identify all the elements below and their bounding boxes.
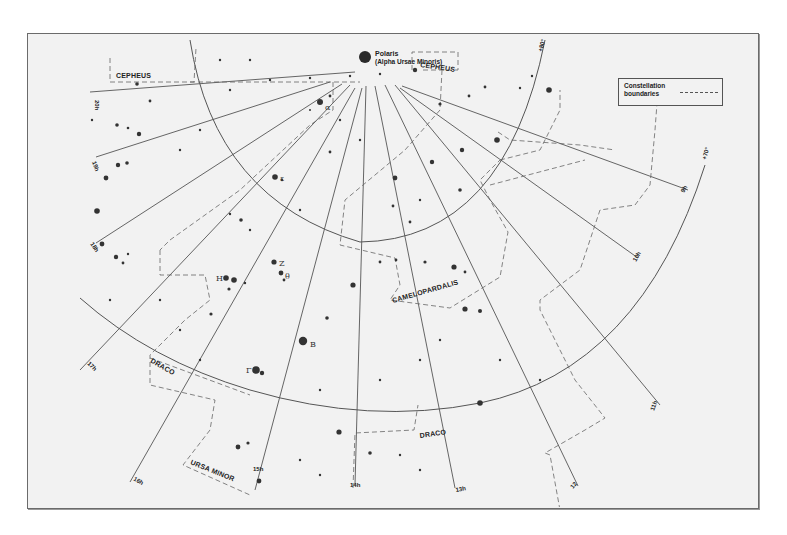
label-draco-bottom: DRACO xyxy=(419,428,447,439)
star-label-z: Z xyxy=(279,259,285,268)
constellation-boundaries xyxy=(110,48,695,510)
dec-circle-80 xyxy=(190,40,545,242)
label-9h: 9h xyxy=(680,184,689,193)
label-18h: 18h xyxy=(89,241,100,253)
star-label-h: H xyxy=(216,274,223,283)
legend-label: Constellation boundaries xyxy=(624,82,674,98)
label-ursa-minor: URSA MINOR xyxy=(190,458,236,482)
polaris-label: Polaris xyxy=(375,50,398,57)
star-label-theta: θ xyxy=(285,272,290,281)
label-dec-80: +80° xyxy=(537,38,546,52)
legend-dashed-line-icon xyxy=(680,92,718,93)
label-10h: 10h xyxy=(632,250,643,262)
label-20h: 20h xyxy=(94,100,100,111)
hour-lines xyxy=(80,72,688,490)
label-cepheus-top: CEPHEUS xyxy=(420,61,456,73)
label-camelopardalis: CAMELOPARDALIS xyxy=(391,278,459,304)
label-12h: 12 xyxy=(569,480,578,489)
label-13h: 13h xyxy=(455,485,467,493)
label-cepheus-left: CEPHEUS xyxy=(116,72,151,79)
label-dec-70: +70° xyxy=(701,146,710,160)
label-16h: 16h xyxy=(133,476,145,487)
label-14h: 14h xyxy=(350,482,361,488)
label-19h: 19h xyxy=(91,160,100,172)
star-label-alpha: α xyxy=(325,103,331,112)
legend: Constellation boundaries xyxy=(618,78,723,106)
star-label-gamma: Γ xyxy=(246,366,252,375)
polaris-star xyxy=(359,51,371,63)
star-label-b: B xyxy=(310,340,316,349)
label-15h: 15h xyxy=(253,466,264,472)
label-17h: 17h xyxy=(86,360,98,372)
star-label-epsilon: ε xyxy=(280,174,284,183)
dec-circle-70 xyxy=(80,165,705,411)
